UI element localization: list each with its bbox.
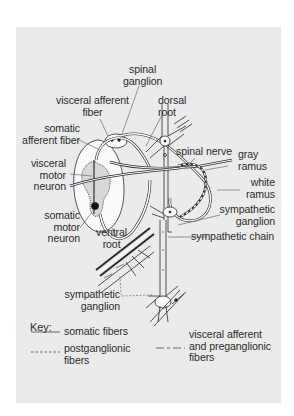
key-title: Key:: [30, 322, 52, 334]
label-spinal-nerve: spinal nerve: [176, 146, 232, 158]
sympathetic-ganglion-bottom-pointers: [120, 276, 152, 296]
label-sympathetic-chain: sympathetic chain: [191, 231, 274, 243]
label-somatic-afferent-fiber: somaticafferent fiber: [22, 123, 80, 146]
key-label-somatic-fibers: somatic fibers: [64, 326, 128, 338]
label-visceral-afferent-fiber: visceral afferentfiber: [56, 95, 129, 118]
label-visceral-motor-neuron: visceralmotorneuron: [18, 158, 66, 193]
label-ventral-root: ventralroot: [96, 227, 127, 250]
label-spinal-ganglion: spinalganglion: [123, 64, 162, 87]
label-somatic-motor-neuron: somaticmotorneuron: [30, 210, 80, 245]
sympathetic-chain: [146, 206, 186, 326]
label-gray-ramus: grayramus: [238, 149, 267, 172]
label-white-ramus: whiteramus: [232, 177, 275, 200]
label-sympathetic-ganglion-bottom: sympatheticganglion: [58, 289, 120, 312]
label-sympathetic-ganglion: sympatheticganglion: [214, 204, 275, 227]
key-label-postganglionic-fibers: postganglionicfibers: [64, 343, 130, 366]
key-label-visceral-afferent-preganglionic: visceral afferentand preganglionicfibers: [189, 329, 271, 364]
label-dorsal-root: dorsalroot: [158, 95, 186, 118]
